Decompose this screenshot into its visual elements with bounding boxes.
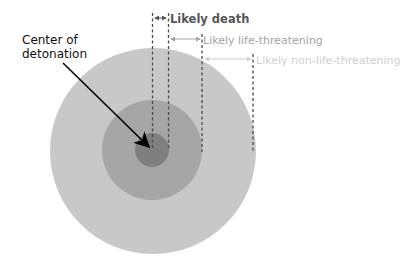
label-center-of-detonation-line2: detonation [22,47,87,61]
label-likely-death: Likely death [170,12,249,26]
label-center-of-detonation-line1: Center of [22,33,79,47]
label-likely-non-life-threatening: Likely non-life-threatening [256,54,401,67]
label-likely-life-threatening: Likely life-threatening [203,34,323,47]
blast-radius-diagram: Likely death Likely life-threatening Lik… [0,0,410,264]
